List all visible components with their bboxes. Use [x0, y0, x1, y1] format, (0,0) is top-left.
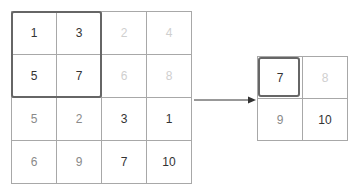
arrow-right-icon	[194, 96, 256, 104]
output-grid-cell: 9	[258, 99, 303, 141]
output-grid-cell: 8	[303, 57, 348, 99]
input-grid-cell: 2	[102, 12, 147, 55]
output-cell-highlight	[258, 57, 300, 97]
pooling-window-highlight	[11, 11, 102, 98]
output-grid-cell: 10	[303, 99, 348, 141]
input-grid-cell: 4	[147, 12, 192, 55]
input-grid-cell: 7	[102, 141, 147, 184]
input-grid-cell: 6	[12, 141, 57, 184]
input-grid-cell: 9	[57, 141, 102, 184]
input-grid-cell: 1	[147, 98, 192, 141]
input-grid-cell: 10	[147, 141, 192, 184]
input-grid-cell: 5	[12, 98, 57, 141]
input-grid-cell: 8	[147, 55, 192, 98]
input-grid-cell: 6	[102, 55, 147, 98]
input-grid-cell: 3	[102, 98, 147, 141]
input-grid-cell: 2	[57, 98, 102, 141]
